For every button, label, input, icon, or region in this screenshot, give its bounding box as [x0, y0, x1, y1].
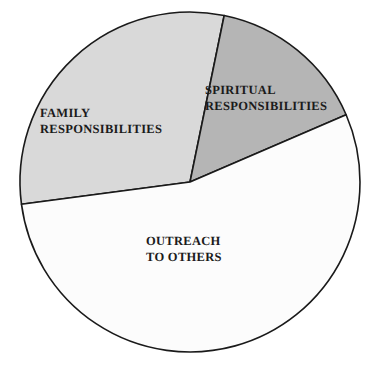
pie-slice-label-spiritual: SPIRITUAL RESPONSIBILITIES — [205, 82, 327, 114]
pie-slice-label-outreach: OUTREACH TO OTHERS — [146, 233, 222, 265]
pie-chart-figure: FAMILY RESPONSIBILITIES SPIRITUAL RESPON… — [0, 0, 379, 365]
pie-chart-canvas — [0, 0, 379, 365]
pie-slice-label-family: FAMILY RESPONSIBILITIES — [40, 105, 162, 137]
